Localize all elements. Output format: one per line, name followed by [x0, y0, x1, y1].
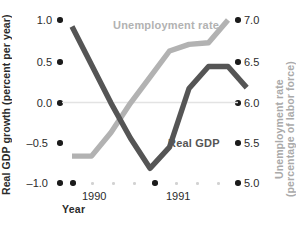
series-line-unemployment-rate — [72, 20, 228, 156]
plot-area — [0, 0, 296, 234]
chart-figure: Real GDP growth (percent per year) Unemp… — [0, 0, 296, 234]
figure-caption — [44, 226, 294, 234]
